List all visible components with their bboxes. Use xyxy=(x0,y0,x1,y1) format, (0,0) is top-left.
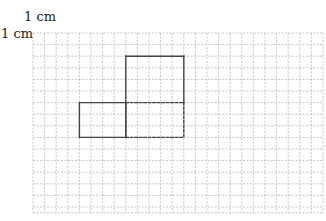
shapes xyxy=(79,56,183,137)
grid-diagram xyxy=(0,0,326,221)
dashed-rectangle xyxy=(126,103,184,138)
square-grid xyxy=(33,33,323,213)
